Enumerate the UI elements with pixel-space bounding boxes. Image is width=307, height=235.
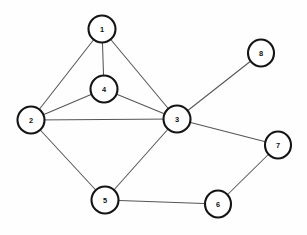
graph-edge-2-5 xyxy=(31,120,105,200)
graph-edge-3-5 xyxy=(105,119,177,200)
graph-node-2[interactable]: 2 xyxy=(18,107,45,134)
node-layer: 12345678 xyxy=(18,16,292,218)
edge-layer xyxy=(31,29,278,204)
graph-node-8[interactable]: 8 xyxy=(248,40,274,67)
graph-svg: 12345678 xyxy=(0,0,307,235)
graph-node-6[interactable]: 6 xyxy=(205,191,231,218)
graph-node-4[interactable]: 4 xyxy=(91,76,118,103)
graph-edge-1-2 xyxy=(31,29,102,120)
graph-node-5[interactable]: 5 xyxy=(92,187,119,214)
node-circle-3[interactable] xyxy=(164,106,191,133)
graph-node-3[interactable]: 3 xyxy=(164,106,191,133)
node-circle-6[interactable] xyxy=(205,191,231,218)
graph-edge-3-8 xyxy=(177,53,261,119)
graph-node-1[interactable]: 1 xyxy=(89,16,116,43)
graph-node-7[interactable]: 7 xyxy=(265,132,291,159)
node-circle-7[interactable] xyxy=(265,132,291,159)
node-circle-1[interactable] xyxy=(89,16,116,43)
graph-edge-5-6 xyxy=(105,200,218,204)
node-circle-2[interactable] xyxy=(18,107,45,134)
node-circle-8[interactable] xyxy=(248,40,274,67)
graph-edge-1-3 xyxy=(102,29,177,119)
graph-edge-2-3 xyxy=(31,119,177,120)
node-circle-4[interactable] xyxy=(91,76,118,103)
graph-diagram-canvas: 12345678 xyxy=(0,0,307,235)
graph-edge-3-7 xyxy=(177,119,278,145)
node-circle-5[interactable] xyxy=(92,187,119,214)
